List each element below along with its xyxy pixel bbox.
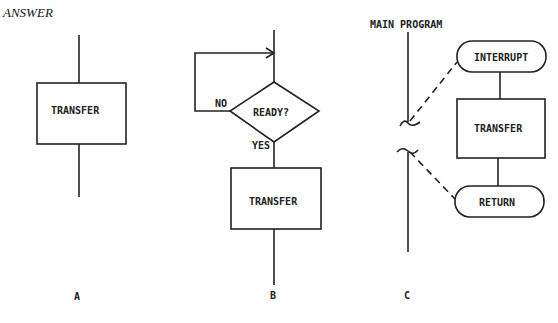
caption-b: B xyxy=(270,290,276,301)
main-program-label: MAIN PROGRAM xyxy=(370,19,442,30)
transfer-label-c: TRANSFER xyxy=(474,123,523,134)
diagram-a xyxy=(37,35,126,197)
interrupt-label: INTERRUPT xyxy=(474,52,528,63)
no-label: NO xyxy=(215,98,227,109)
flowchart-canvas: TRANSFER A NO READY? YES TRANSFER B MAIN… xyxy=(0,0,558,323)
no-loop-line xyxy=(195,53,274,111)
transfer-label-b: TRANSFER xyxy=(249,196,298,207)
ready-label: READY? xyxy=(253,107,289,118)
yes-label: YES xyxy=(252,140,270,151)
caption-c: C xyxy=(404,290,410,301)
dashed-link xyxy=(410,152,455,199)
transfer-label-a: TRANSFER xyxy=(51,105,100,116)
diagram-b xyxy=(195,30,321,285)
return-label: RETURN xyxy=(479,197,515,208)
caption-a: A xyxy=(74,291,80,302)
dashed-link xyxy=(410,62,457,121)
diagram-c xyxy=(397,32,546,252)
break-mark-icon xyxy=(400,121,420,126)
